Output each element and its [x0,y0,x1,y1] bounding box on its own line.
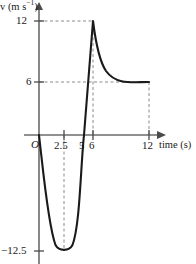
y-tick-label-minus12p5: −12.5 [1,245,26,256]
y-axis-label-text: v (m s [0,1,26,12]
x-tick-label-12: 12 [142,140,153,151]
y-tick-label-6: 6 [26,76,32,87]
x-axis-label: time (s) [159,140,191,151]
y-axis-label-close: ) [34,1,38,12]
origin-label: O [31,139,39,150]
y-axis-label: v (m s−1) [0,0,38,12]
x-axis-arrow [157,131,166,139]
x-tick-label-2p5: 2.5 [54,140,68,151]
x-tick-label-6: 6 [89,140,95,151]
velocity-time-graph-figure: v (m s−1) time (s) 12 6 −12.5 O 2.5 5 6 … [0,0,196,264]
plot-canvas [0,0,196,264]
y-tick-label-12: 12 [16,15,27,26]
x-tick-label-5: 5 [79,140,85,151]
